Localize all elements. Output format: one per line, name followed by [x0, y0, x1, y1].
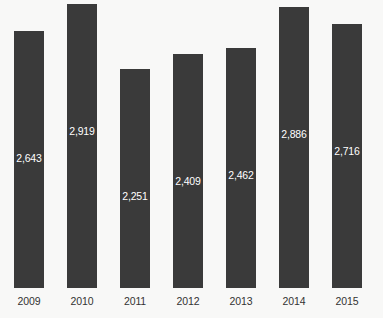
plot-area: 2,643 2,919 2,251 2,409 2,462 2,886 2,71…: [0, 0, 383, 288]
bar-group: 2,462: [226, 0, 256, 288]
x-axis-tick-label: 2009: [14, 295, 44, 307]
x-axis-tick-label: 2015: [332, 295, 362, 307]
x-axis-tick-label: 2012: [173, 295, 203, 307]
bar-group: 2,919: [67, 0, 97, 288]
bar-value-label: 2,919: [67, 125, 97, 137]
bar-group: 2,251: [120, 0, 150, 288]
bar-value-label: 2,886: [279, 128, 309, 140]
bar-chart: 2,643 2,919 2,251 2,409 2,462 2,886 2,71…: [0, 0, 383, 318]
x-axis-tick-label: 2011: [120, 295, 150, 307]
bar[interactable]: [226, 48, 256, 288]
bar-group: 2,886: [279, 0, 309, 288]
bar-value-label: 2,716: [332, 145, 362, 157]
bar[interactable]: [279, 7, 309, 288]
bar[interactable]: [120, 69, 150, 288]
bar[interactable]: [67, 4, 97, 288]
x-axis-tick-label: 2014: [279, 295, 309, 307]
bar-value-label: 2,409: [173, 175, 203, 187]
bar[interactable]: [173, 54, 203, 288]
x-axis-labels: 2009 2010 2011 2012 2013 2014 2015: [0, 288, 383, 318]
bar-value-label: 2,643: [14, 152, 44, 164]
x-axis-tick-label: 2010: [67, 295, 97, 307]
x-axis-tick-label: 2013: [226, 295, 256, 307]
bar-group: 2,643: [14, 0, 44, 288]
bar-group: 2,716: [332, 0, 362, 288]
bar-value-label: 2,462: [226, 169, 256, 181]
bar-group: 2,409: [173, 0, 203, 288]
bar-value-label: 2,251: [120, 190, 150, 202]
